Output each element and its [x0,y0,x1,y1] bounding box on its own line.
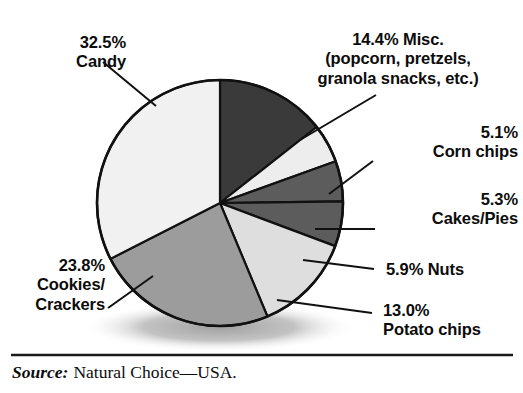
slice-label-candy: 32.5% Candy [8,33,126,72]
pie-chart-figure: 32.5% Candy 14.4% Misc. (popcorn, pretze… [0,0,523,393]
slice-label-corn-chips: 5.1% Corn chips [355,123,518,162]
slice-label-misc: 14.4% Misc. (popcorn, pretzels, granola … [275,30,521,88]
slice-label-nuts: 5.9% Nuts [386,260,521,279]
slice-label-potato-chips: 13.0% Potato chips [383,301,523,340]
source-note: Source:Natural Choice—USA. [12,362,512,383]
slice-label-cakes-pies: 5.3% Cakes/Pies [355,190,518,229]
slice-label-cookies-crackers: 23.8% Cookies/ Crackers [0,256,105,314]
source-text: Natural Choice—USA. [73,362,236,382]
source-label: Source: [12,362,68,382]
